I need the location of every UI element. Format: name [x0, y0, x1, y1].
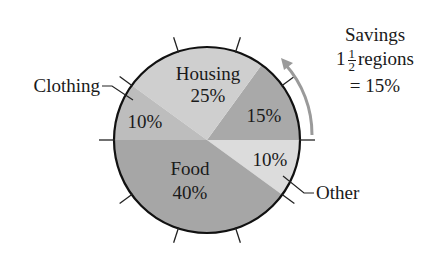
housing-label: Housing	[176, 63, 241, 84]
fraction: 12	[348, 48, 357, 73]
clothing-label: Clothing	[33, 75, 100, 96]
tick-mark	[281, 77, 294, 86]
tick-mark	[235, 227, 240, 242]
tick-mark	[120, 77, 133, 86]
tick-mark	[235, 37, 240, 52]
food-label: Food	[170, 158, 210, 179]
annotation-title: Savings	[330, 24, 420, 46]
tick-mark	[120, 194, 133, 203]
housing-pct: 25%	[191, 85, 226, 106]
clothing-pct: 10%	[128, 111, 163, 132]
savings-pct: 15%	[247, 105, 282, 126]
annotation-regions: 112regions	[330, 48, 420, 73]
tick-mark	[174, 37, 179, 52]
tick-mark	[174, 227, 179, 242]
other-pct: 10%	[253, 149, 288, 170]
tick-mark	[281, 194, 294, 203]
annotation-result: = 15%	[330, 75, 420, 97]
food-pct: 40%	[173, 182, 208, 203]
savings-annotation: Savings 112regions = 15%	[330, 24, 420, 97]
other-label: Other	[316, 182, 360, 203]
